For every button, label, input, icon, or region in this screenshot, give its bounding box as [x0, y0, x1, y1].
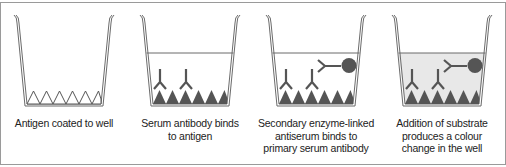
- caption-step-2: Serum antibody binds to antigen: [127, 117, 253, 142]
- caption-line: Antigen coated to well: [1, 117, 127, 130]
- well-empty-icon: [1, 3, 127, 118]
- enzyme-linked-secondary-antibody: [318, 58, 357, 73]
- well-colour-change-icon: [379, 3, 505, 118]
- antigen-outline-row: [27, 91, 101, 104]
- caption-line: to antigen: [127, 130, 253, 143]
- antigen-filled-row: [153, 90, 227, 104]
- caption-line: Serum antibody binds: [127, 117, 253, 130]
- panel-step-3: Secondary enzyme-linked antiserum binds …: [253, 3, 379, 164]
- panel-step-1: Antigen coated to well: [1, 3, 127, 164]
- panel-step-2: Serum antibody binds to antigen: [127, 3, 253, 164]
- caption-line: change in the well: [379, 142, 505, 155]
- caption-step-3: Secondary enzyme-linked antiserum binds …: [253, 117, 379, 155]
- caption-line: Addition of substrate: [379, 117, 505, 130]
- panel-step-4: Addition of substrate produces a colour …: [379, 3, 505, 164]
- antigen-filled-row: [279, 90, 353, 104]
- caption-step-1: Antigen coated to well: [1, 117, 127, 130]
- well-antibody-icon: [127, 3, 253, 118]
- caption-step-4: Addition of substrate produces a colour …: [379, 117, 505, 155]
- caption-line: antiserum binds to: [253, 130, 379, 143]
- figure-frame: Antigen coated to well: [0, 2, 506, 165]
- well-secondary-antibody-icon: [253, 3, 379, 118]
- caption-line: primary serum antibody: [253, 142, 379, 155]
- caption-line: produces a colour: [379, 130, 505, 143]
- primary-antibodies: [154, 69, 192, 89]
- caption-line: Secondary enzyme-linked: [253, 117, 379, 130]
- primary-antibodies: [280, 69, 318, 89]
